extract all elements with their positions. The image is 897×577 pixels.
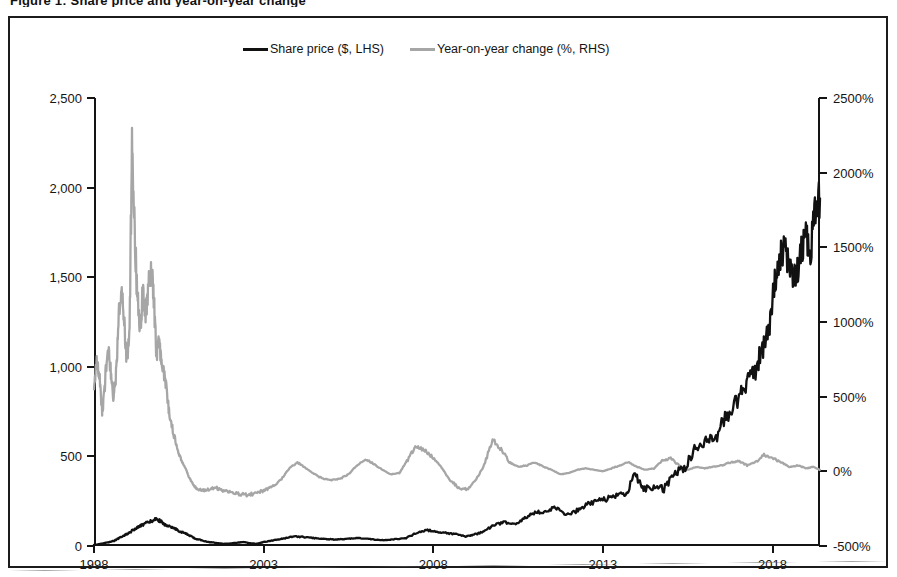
plot-area: 05001,0001,5002,0002,500 -500%0%500%1000…	[94, 98, 820, 546]
right-tick-mark	[819, 172, 827, 174]
bottom-tick-mark	[772, 545, 774, 553]
right-tick-mark	[819, 246, 827, 248]
scan-edge-artifact	[0, 561, 897, 571]
right-tick-label: -500%	[833, 539, 871, 554]
legend-line-swatch-share-price	[243, 48, 268, 51]
left-tick-label: 1,500	[49, 270, 82, 285]
bottom-tick-mark	[93, 545, 95, 553]
right-tick-label: 2000%	[833, 165, 873, 180]
right-tick-label: 0%	[833, 464, 852, 479]
bottom-tick-mark	[263, 545, 265, 553]
left-tick-label: 2,000	[49, 180, 82, 195]
bottom-tick-mark	[602, 545, 604, 553]
left-tick-label: 1,000	[49, 359, 82, 374]
right-tick-label: 1500%	[833, 240, 873, 255]
legend-label-yoy-change: Year-on-year change (%, RHS)	[437, 42, 610, 56]
right-tick-mark	[819, 396, 827, 398]
right-tick-mark	[819, 321, 827, 323]
legend-item-share-price: Share price ($, LHS)	[243, 42, 384, 56]
right-tick-mark	[819, 545, 827, 547]
right-tick-label: 1000%	[833, 315, 873, 330]
figure-frame: Share price ($, LHS) Year-on-year change…	[8, 16, 888, 568]
right-tick-label: 500%	[833, 389, 866, 404]
left-tick-label: 500	[60, 449, 82, 464]
right-tick-mark	[819, 97, 827, 99]
right-tick-label: 2500%	[833, 91, 873, 106]
legend-line-swatch-yoy-change	[410, 48, 435, 51]
legend-label-share-price: Share price ($, LHS)	[270, 42, 384, 56]
left-tick-label: 2,500	[49, 91, 82, 106]
yoy-change-line	[94, 128, 820, 497]
bottom-tick-mark	[432, 545, 434, 553]
figure-page: Figure 1: Share price and year-on-year c…	[0, 0, 897, 577]
series-plot	[94, 98, 820, 546]
left-tick-label: 0	[75, 539, 82, 554]
legend-item-yoy-change: Year-on-year change (%, RHS)	[410, 42, 610, 56]
figure-caption: Figure 1: Share price and year-on-year c…	[10, 0, 306, 7]
chart-legend: Share price ($, LHS) Year-on-year change…	[243, 42, 609, 56]
